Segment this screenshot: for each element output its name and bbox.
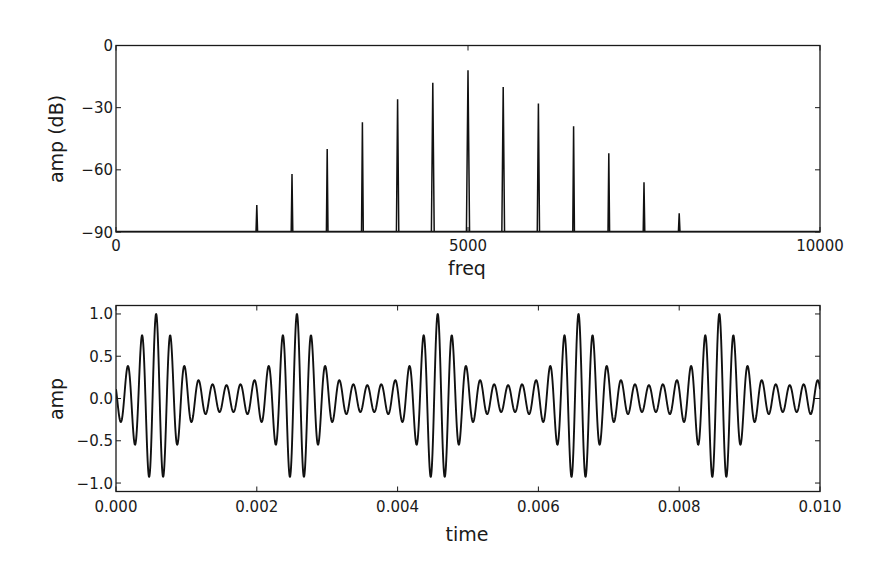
spectrum-peak — [537, 104, 539, 232]
x-tick-label: 0.002 — [235, 498, 278, 516]
x-tick-label: 0.000 — [95, 498, 138, 516]
spectrum-plot: 0−30−60−90 0500010000 freq amp (dB) — [45, 37, 844, 279]
spectrum-peak — [678, 213, 680, 232]
spectrum-peak — [573, 126, 575, 232]
figure: 0−30−60−90 0500010000 freq amp (dB) 1.00… — [0, 0, 891, 564]
waveform-line — [116, 314, 820, 477]
y-tick-label: 0.0 — [89, 390, 113, 408]
spectrum-peak — [326, 149, 328, 232]
x-tick-label: 0.004 — [376, 498, 419, 516]
x-tick-label: 0 — [111, 237, 121, 255]
x-tick-label: 0.008 — [658, 498, 701, 516]
spectrum-peak — [291, 174, 293, 232]
x-tick-label: 0.010 — [799, 498, 842, 516]
spectrum-peak — [643, 182, 645, 232]
spectrum-peak — [502, 87, 505, 232]
spectrum-peak — [466, 70, 469, 232]
y-tick-label: 0 — [103, 37, 113, 55]
y-tick-label: −0.5 — [77, 432, 113, 450]
spectrum-y-ticks: 0−30−60−90 — [81, 37, 820, 242]
y-tick-label: −60 — [81, 161, 113, 179]
spectrum-peak — [362, 122, 364, 232]
spectrum-peak — [431, 83, 434, 232]
x-tick-label: 5000 — [449, 237, 487, 255]
spectrum-stems — [116, 70, 820, 232]
y-tick-label: −30 — [81, 99, 113, 117]
spectrum-peak — [396, 99, 398, 232]
spectrum-peak — [256, 205, 258, 232]
spectrum-y-axis-label: amp (dB) — [45, 95, 67, 183]
y-tick-label: −1.0 — [77, 475, 113, 493]
y-tick-label: 0.5 — [89, 348, 113, 366]
x-tick-label: 10000 — [796, 237, 844, 255]
spectrum-x-ticks: 0500010000 — [111, 46, 844, 256]
waveform-y-axis-label: amp — [45, 378, 67, 420]
y-tick-label: 1.0 — [89, 305, 113, 323]
waveform-x-axis-label: time — [446, 523, 489, 545]
y-tick-label: −90 — [81, 224, 113, 242]
x-tick-label: 0.006 — [517, 498, 560, 516]
spectrum-peak — [608, 153, 610, 232]
waveform-plot: 1.00.50.0−0.5−1.0 0.0000.0020.0040.0060.… — [45, 305, 841, 545]
spectrum-x-axis-label: freq — [448, 257, 486, 279]
